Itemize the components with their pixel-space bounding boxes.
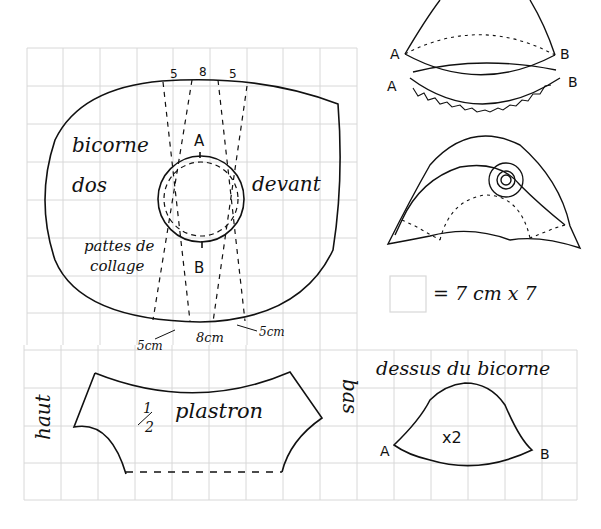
finished-bicorne-diagram bbox=[388, 136, 580, 248]
cut-lines bbox=[153, 80, 247, 322]
label-bicorne: bicorne bbox=[72, 133, 149, 157]
brim-piece bbox=[45, 80, 340, 339]
scale-note: = 7 cm x 7 bbox=[433, 282, 538, 304]
plastron-name: plastron bbox=[175, 399, 263, 423]
label-collage: collage bbox=[90, 257, 145, 275]
bottom-measure-center: 8cm bbox=[196, 330, 224, 345]
label-point-a: A bbox=[194, 132, 205, 150]
plastron-fraction-denominator: 2 bbox=[144, 419, 154, 435]
label-devant: devant bbox=[252, 172, 322, 196]
crown-label-b: B bbox=[540, 446, 550, 462]
plastron-label-bas: bas bbox=[338, 379, 362, 414]
bicorne-pattern-diagram: 5 8 5 bicorne dos devant pattes de colla… bbox=[0, 0, 601, 529]
assembly-crown-diagram bbox=[405, 0, 560, 112]
scale-square-icon bbox=[390, 276, 426, 312]
label-pattes-de: pattes de bbox=[84, 237, 155, 255]
crown-piece bbox=[394, 383, 532, 466]
top-measure-left: 5 bbox=[170, 67, 178, 81]
plastron-label-haut: haut bbox=[31, 393, 55, 440]
bottom-measure-right: 5cm bbox=[259, 325, 285, 339]
assembly-label-b-upper: B bbox=[560, 46, 570, 62]
assembly-label-b-lower: B bbox=[568, 74, 578, 90]
plastron-piece bbox=[74, 372, 322, 474]
top-measure-center: 8 bbox=[199, 65, 207, 79]
label-point-b: B bbox=[194, 259, 204, 277]
crown-piece-title: dessus du bicorne bbox=[376, 357, 550, 379]
assembly-label-a-lower: A bbox=[387, 78, 397, 94]
top-measure-right: 5 bbox=[229, 67, 237, 81]
label-dos: dos bbox=[72, 173, 107, 197]
bottom-measure-left: 5cm bbox=[137, 339, 163, 353]
cockade-icon bbox=[489, 163, 523, 197]
crown-label-a: A bbox=[380, 443, 390, 459]
crown-piece-count: x2 bbox=[442, 428, 462, 447]
brim-outline bbox=[45, 80, 340, 322]
assembly-label-a-upper: A bbox=[390, 46, 400, 62]
